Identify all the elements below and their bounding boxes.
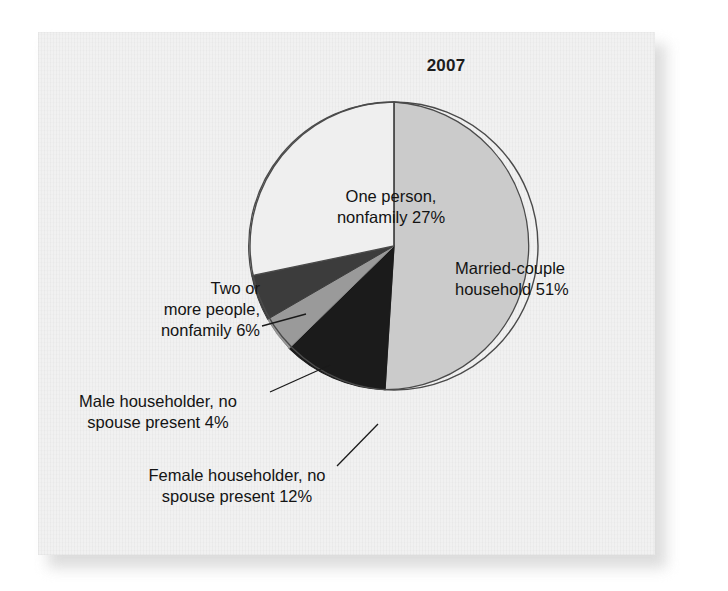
pie-label-female-householder-no-spouse: Female householder, no spouse present 12… — [112, 465, 362, 507]
pie-slice-married-couple-household — [385, 102, 529, 390]
pie-label-one-person-nonfamily: One person, nonfamily 27% — [306, 186, 476, 228]
pie-chart-svg — [248, 100, 540, 392]
page-title: 2007 — [396, 56, 496, 76]
pie-chart — [248, 100, 540, 392]
pie-label-married-couple-household: Married-couple household 51% — [455, 258, 630, 300]
pie-label-male-householder-no-spouse: Male householder, no spouse present 4% — [34, 391, 282, 433]
pie-label-two-or-more-people-nonfamily: Two or more people, nonfamily 6% — [112, 278, 260, 341]
figure-page: 2007 One person, nonfa — [0, 0, 728, 591]
